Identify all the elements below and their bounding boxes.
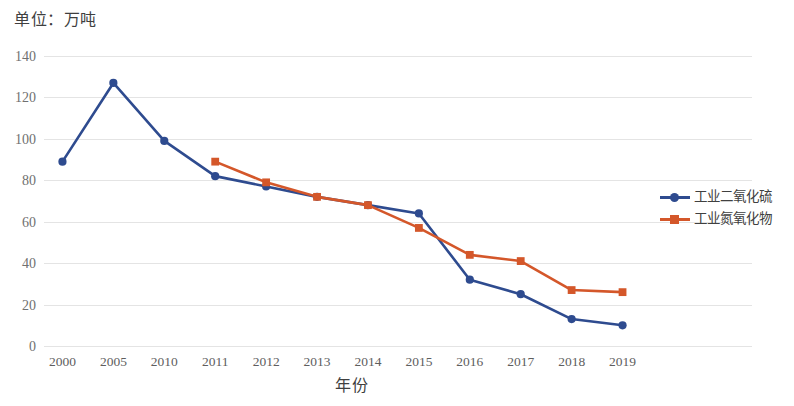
data-point-series-0[interactable]: [58, 158, 66, 166]
gridlines: [44, 57, 752, 347]
x-axis-tick-labels: 2000200520102011201220132014201520162017…: [49, 354, 636, 369]
x-axis-tick-label: 2000: [49, 354, 76, 369]
legend-marker-square-icon: [660, 213, 690, 225]
data-point-series-1[interactable]: [364, 201, 372, 209]
y-axis-tick-label: 40: [22, 256, 36, 271]
data-point-series-0[interactable]: [415, 209, 423, 217]
chart-legend: 工业二氧化硫 工业氮氧化物: [660, 186, 792, 230]
x-axis-tick-label: 2016: [456, 354, 483, 369]
legend-label-series-1: 工业氮氧化物: [694, 212, 772, 226]
y-axis-tick-label: 100: [15, 132, 36, 147]
data-point-series-0[interactable]: [466, 276, 474, 284]
y-axis-tick-label: 60: [22, 215, 36, 230]
data-point-series-1[interactable]: [568, 286, 576, 294]
data-point-series-1[interactable]: [415, 224, 423, 232]
data-point-series-0[interactable]: [160, 137, 168, 145]
data-point-series-0[interactable]: [109, 79, 117, 87]
data-point-series-0[interactable]: [618, 321, 626, 329]
x-axis-title: 年份: [335, 377, 369, 394]
x-axis-tick-label: 2013: [304, 354, 331, 369]
data-point-series-0[interactable]: [211, 172, 219, 180]
data-point-series-1[interactable]: [619, 288, 627, 296]
data-point-series-1[interactable]: [211, 158, 219, 166]
x-axis-tick-label: 2018: [558, 354, 585, 369]
series-lines: [58, 79, 626, 330]
data-point-series-0[interactable]: [517, 290, 525, 298]
x-axis-tick-label: 2011: [202, 354, 229, 369]
y-axis-tick-label: 80: [22, 173, 36, 188]
y-axis-tick-labels: 020406080100120140: [15, 49, 36, 354]
data-point-series-1[interactable]: [313, 193, 321, 201]
y-axis-tick-label: 120: [15, 90, 36, 105]
x-axis-tick-label: 2005: [100, 354, 127, 369]
x-axis-tick-label: 2014: [354, 354, 381, 369]
x-axis-tick-label: 2010: [151, 354, 178, 369]
x-axis-tick-label: 2017: [507, 354, 534, 369]
y-axis-tick-label: 0: [29, 339, 36, 354]
x-axis-tick-label: 2019: [609, 354, 636, 369]
legend-item-series-1[interactable]: 工业氮氧化物: [660, 208, 792, 230]
data-point-series-1[interactable]: [517, 257, 525, 265]
x-axis-tick-label: 2015: [405, 354, 432, 369]
y-axis-tick-label: 140: [15, 49, 36, 64]
series-line-0: [62, 83, 622, 325]
data-point-series-1[interactable]: [466, 251, 474, 259]
legend-item-series-0[interactable]: 工业二氧化硫: [660, 186, 792, 208]
legend-label-series-0: 工业二氧化硫: [694, 190, 772, 204]
y-axis-tick-label: 20: [22, 298, 36, 313]
legend-marker-circle-icon: [660, 191, 690, 203]
data-point-series-0[interactable]: [568, 315, 576, 323]
data-point-series-1[interactable]: [262, 178, 270, 186]
line-chart: 单位：万吨 020406080100120140 200020052010201…: [0, 0, 794, 406]
x-axis-tick-label: 2012: [253, 354, 280, 369]
